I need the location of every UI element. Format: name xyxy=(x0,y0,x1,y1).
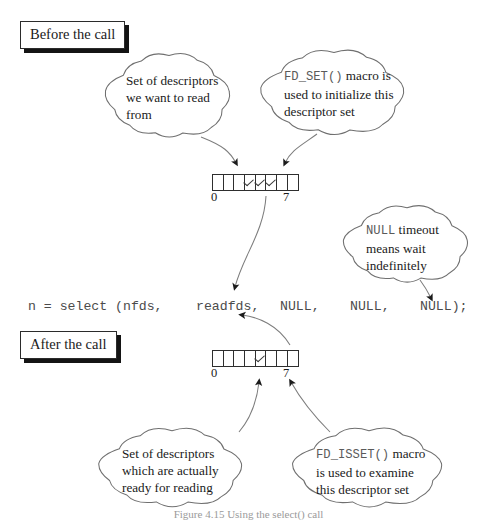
code-arg-exceptfds-null: NULL, xyxy=(350,299,390,314)
arrow-fdisset-cloud-to-after-set xyxy=(291,382,330,432)
arrow-descriptors-to-before-set xyxy=(201,137,236,163)
fd-cell-6 xyxy=(276,174,287,191)
code-select-prefix: n = select (nfds, xyxy=(28,299,163,314)
callout-set-of-descriptors-text: Set of descriptorswe want to readfrom xyxy=(126,72,218,123)
fd-cell-0 xyxy=(212,350,223,367)
callout-fd-isset-macro: FD_ISSET() macrois used to examinethis d… xyxy=(296,430,442,506)
arrow-readfds-to-after-set xyxy=(242,315,290,345)
callout-set-of-descriptors: Set of descriptorswe want to readfrom xyxy=(108,55,230,137)
fd-cell-1 xyxy=(223,174,234,191)
fd-set-before-end-index: 7 xyxy=(283,190,289,205)
callout-fd-set-macro: FD_SET() macro isused to initialize this… xyxy=(264,52,404,134)
fd-cell-6 xyxy=(276,350,287,367)
fd-cell-4 xyxy=(255,350,266,367)
fd-cell-5 xyxy=(265,350,276,367)
callout-null-timeout: NULL timeoutmeans waitindefinitely xyxy=(346,207,468,282)
fd-cell-7 xyxy=(287,350,299,367)
arrow-null-timeout-to-argument xyxy=(420,280,431,298)
callout-ready-for-reading-text: Set of descriptorswhich are actuallyread… xyxy=(122,445,219,496)
fd-set-after-end-index: 7 xyxy=(283,366,289,381)
code-arg-timeout-null: NULL); xyxy=(420,299,467,314)
arrow-before-set-to-readfds xyxy=(235,196,266,287)
callout-fd-isset-macro-text: FD_ISSET() macrois used to examinethis d… xyxy=(316,445,425,498)
callout-null-timeout-text: NULL timeoutmeans waitindefinitely xyxy=(366,221,439,274)
fd-set-before-start-index: 0 xyxy=(211,190,217,205)
fd-set-after-start-index: 0 xyxy=(211,366,217,381)
fd-cell-7 xyxy=(287,174,299,191)
code-arg-writefds-null: NULL, xyxy=(280,299,320,314)
callout-ready-for-reading: Set of descriptorswhich are actuallyread… xyxy=(102,430,242,506)
arrow-ready-cloud-to-after-set xyxy=(239,382,259,432)
arrow-fdset-to-before-set xyxy=(285,134,317,163)
fd-set-before xyxy=(212,174,299,191)
fd-cell-0 xyxy=(212,174,223,191)
code-arg-readfds: readfds, xyxy=(196,299,259,314)
figure-caption: Figure 4.15 Using the select() call xyxy=(0,508,497,520)
fd-cell-5 xyxy=(265,174,276,191)
label-after-the-call: After the call xyxy=(20,331,117,359)
fd-cell-2 xyxy=(233,350,244,367)
fd-set-after xyxy=(212,350,299,367)
figure-canvas: Before the call After the call 0 7 0 7 n… xyxy=(0,0,497,520)
fd-cell-1 xyxy=(223,350,234,367)
callout-fd-set-macro-text: FD_SET() macro isused to initialize this… xyxy=(284,67,394,120)
label-before-the-call: Before the call xyxy=(20,21,125,49)
